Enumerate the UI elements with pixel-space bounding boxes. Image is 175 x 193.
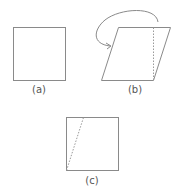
- dotted-diagonal-c: [67, 118, 84, 171]
- square-c: [67, 118, 119, 171]
- curved-arrow-b: [96, 11, 158, 47]
- diagram-canvas: [0, 0, 175, 193]
- square-a: [14, 28, 66, 81]
- label-b: (b): [120, 84, 150, 95]
- label-a: (a): [24, 84, 54, 95]
- label-c: (c): [77, 175, 107, 186]
- parallelogram-b: [102, 28, 171, 81]
